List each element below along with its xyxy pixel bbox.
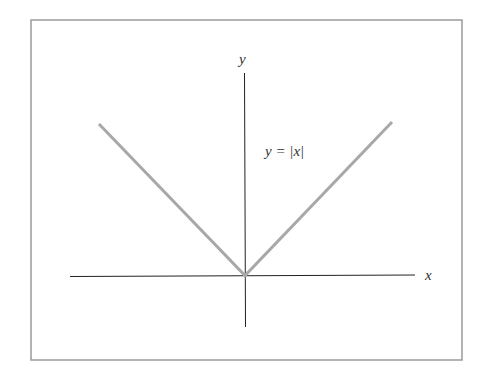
x-axis (70, 275, 415, 277)
x-axis-label: x (424, 267, 432, 283)
function-label: y = |x| (263, 143, 304, 159)
frame-border (31, 20, 462, 360)
y-axis-label: y (237, 51, 246, 67)
y-axis (245, 73, 246, 327)
diagram-canvas: x y y = |x| (0, 0, 481, 385)
